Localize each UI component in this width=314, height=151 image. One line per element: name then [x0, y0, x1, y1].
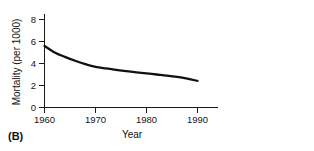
- mortality-data-curve: [45, 46, 198, 81]
- x-tick-label-1960: 1960: [34, 114, 55, 125]
- x-axis-title: Year: [122, 129, 143, 140]
- y-axis: 8 6 4 2 0 Mortality (per 1000): [11, 14, 45, 113]
- y-tick-label-8: 8: [31, 14, 36, 25]
- x-tick-label-1990: 1990: [187, 114, 208, 125]
- y-tick-label-6: 6: [31, 36, 36, 47]
- y-tick-label-4: 4: [31, 58, 36, 69]
- y-tick-label-2: 2: [31, 80, 36, 91]
- x-tick-label-1980: 1980: [136, 114, 157, 125]
- mortality-line-chart: 8 6 4 2 0 Mortality (per 1000) 1960 1970…: [0, 0, 314, 151]
- y-axis-title: Mortality (per 1000): [11, 19, 22, 106]
- panel-label: (B): [8, 130, 24, 142]
- x-tick-label-1970: 1970: [85, 114, 106, 125]
- y-tick-label-0: 0: [31, 102, 36, 113]
- figure-panel-b: 8 6 4 2 0 Mortality (per 1000) 1960 1970…: [0, 0, 314, 151]
- x-axis: 1960 1970 1980 1990 Year: [34, 108, 218, 141]
